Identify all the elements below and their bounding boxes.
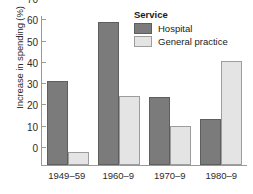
bar-general-practice xyxy=(170,126,191,165)
y-tick-label: 20 xyxy=(27,100,42,111)
legend-swatch-icon xyxy=(134,36,152,47)
y-tick-60: 60 xyxy=(27,10,42,28)
bar-hospital xyxy=(98,22,119,165)
bar-general-practice xyxy=(119,96,140,165)
y-tick-10: 10 xyxy=(27,117,42,135)
legend: Service Hospital General practice xyxy=(134,9,228,49)
x-axis-labels: 1949‒59 1960‒9 1970‒9 1980‒9 xyxy=(41,170,247,181)
y-tick-label: 10 xyxy=(27,122,42,133)
bar-general-practice xyxy=(68,152,89,165)
legend-item-general-practice: General practice xyxy=(134,36,228,47)
x-tick-label: 1960‒9 xyxy=(93,170,145,181)
y-tick-label: 30 xyxy=(27,79,42,90)
y-tick-30: 30 xyxy=(27,74,42,92)
x-tick-label: 1970‒9 xyxy=(144,170,196,181)
y-tick-label: 70 xyxy=(27,0,42,5)
y-tick-20: 20 xyxy=(27,95,42,113)
y-axis-title: Increase in spending (%) xyxy=(14,0,25,123)
y-tick-0: 0 xyxy=(32,138,42,156)
caption-sliver xyxy=(6,188,253,194)
bar-hospital xyxy=(200,119,221,165)
x-tick-label: 1980‒9 xyxy=(196,170,248,181)
y-tick-label: 60 xyxy=(27,15,42,26)
y-tick-label: 50 xyxy=(27,37,42,48)
x-tick-label: 1949‒59 xyxy=(41,170,93,181)
bar-group xyxy=(42,16,93,165)
y-tick-label: 40 xyxy=(27,58,42,69)
legend-item-label: General practice xyxy=(158,36,228,47)
bar-hospital xyxy=(149,97,170,165)
bar-general-practice xyxy=(221,61,242,165)
bar-hospital xyxy=(47,81,68,165)
bar-chart: Increase in spending (%) 0 10 20 30 40 xyxy=(0,0,253,194)
legend-item-label: Hospital xyxy=(158,23,192,34)
y-tick-50: 50 xyxy=(27,32,42,50)
y-tick-label: 0 xyxy=(32,143,42,154)
legend-item-hospital: Hospital xyxy=(134,23,228,34)
y-tick-70: 70 xyxy=(27,0,42,7)
legend-title: Service xyxy=(134,9,228,20)
y-tick-40: 40 xyxy=(27,53,42,71)
legend-swatch-icon xyxy=(134,23,152,34)
